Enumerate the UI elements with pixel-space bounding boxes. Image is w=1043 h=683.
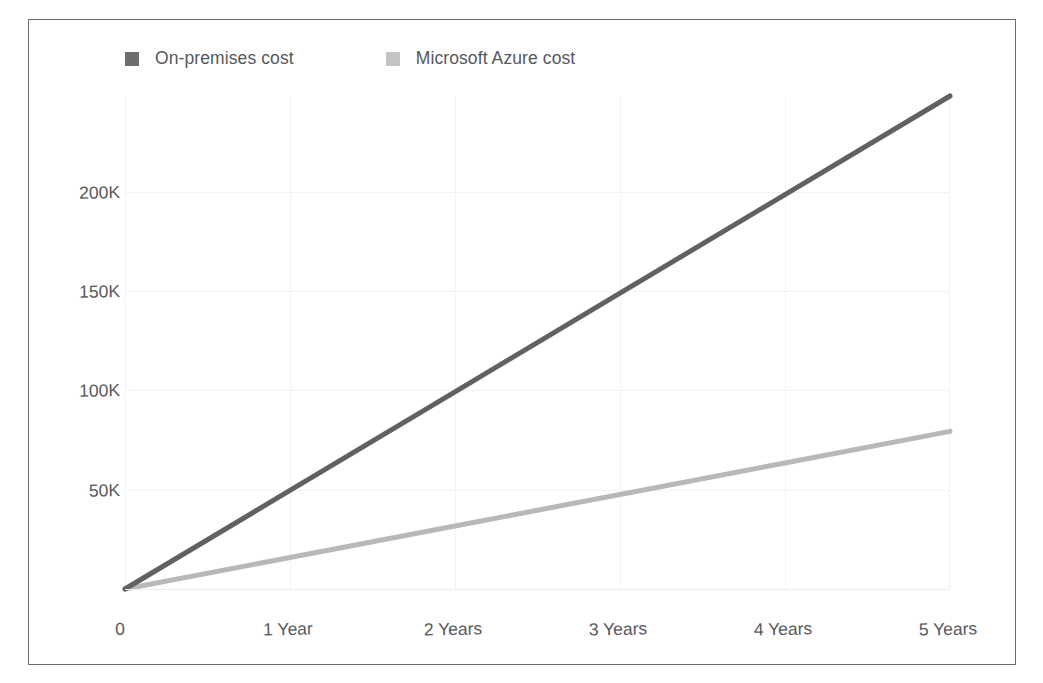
x-axis-tick-3-years: 3 Years	[563, 618, 673, 641]
x-axis-tick-0: 0	[65, 618, 175, 641]
legend-entry-microsoft-azure-cost: Microsoft Azure cost	[386, 48, 576, 69]
chart-plot-area	[125, 96, 950, 589]
x-axis-tick-5-years: 5 Years	[893, 618, 1003, 641]
data-line-microsoft-azure-cost	[125, 431, 950, 589]
chart-legend: On-premises cost Microsoft Azure cost	[125, 48, 575, 69]
y-axis-tick-150k: 150K	[48, 281, 120, 304]
x-axis-tick-4-years: 4 Years	[728, 618, 838, 641]
x-axis-tick-1-year: 1 Year	[233, 618, 343, 641]
legend-swatch-icon-microsoft-azure-cost	[386, 52, 400, 66]
y-axis-tick-50k: 50K	[48, 480, 120, 503]
axis-baseline	[125, 589, 950, 590]
legend-label-on-premises-cost: On-premises cost	[155, 48, 294, 69]
legend-swatch-icon-on-premises-cost	[125, 52, 139, 66]
legend-entry-on-premises-cost: On-premises cost	[125, 48, 294, 69]
legend-label-microsoft-azure-cost: Microsoft Azure cost	[416, 48, 576, 69]
data-line-on-premises-cost	[125, 96, 950, 589]
x-axis-tick-2-years: 2 Years	[398, 618, 508, 641]
y-axis-tick-100k: 100K	[48, 380, 120, 403]
chart-series-svg	[125, 96, 950, 589]
chart-figure: On-premises cost Microsoft Azure cost 20…	[0, 0, 1043, 683]
y-axis-tick-200k: 200K	[48, 182, 120, 205]
